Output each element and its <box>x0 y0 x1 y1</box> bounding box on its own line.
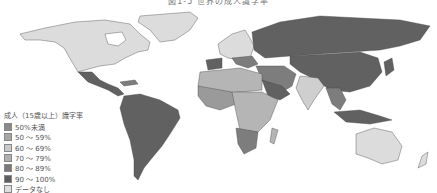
region-japan <box>384 58 394 76</box>
region-madagascar <box>270 128 278 144</box>
region-europe <box>218 30 254 60</box>
region-southern-africa <box>236 128 258 154</box>
region-east-africa <box>232 92 278 132</box>
legend-swatch <box>4 175 12 183</box>
legend-swatch <box>4 133 12 141</box>
legend-item: 90 ～ 100% <box>4 173 83 183</box>
legend-swatch <box>4 185 12 193</box>
legend-label: 60 ～ 69% <box>15 143 51 153</box>
legend-swatch <box>4 164 12 172</box>
legend-title: 成人（15歳以上）識字率 <box>4 110 83 120</box>
legend-item: 50 ～ 59% <box>4 132 83 142</box>
legend-label: 50 ～ 59% <box>15 132 51 142</box>
legend-swatch <box>4 154 12 162</box>
region-greenland <box>138 12 198 42</box>
region-north-america <box>20 20 150 72</box>
region-south-america <box>120 94 180 180</box>
legend-swatch <box>4 144 12 152</box>
legend-item: データなし <box>4 184 83 193</box>
region-mexico <box>78 72 124 96</box>
legend-label: 90 ～ 100% <box>15 174 55 184</box>
legend-swatch <box>4 123 12 131</box>
region-india <box>296 76 324 110</box>
legend-item: 80 ～ 89% <box>4 163 83 173</box>
region-australia <box>356 128 402 164</box>
region-caribbean <box>120 80 138 86</box>
region-balkans <box>232 56 258 68</box>
legend-item: 60 ～ 69% <box>4 143 83 153</box>
map-legend: 成人（15歳以上）識字率 50%未満 50 ～ 59% 60 ～ 69% 70 … <box>4 110 83 193</box>
legend-label: 70 ～ 79% <box>15 153 51 163</box>
region-iberia <box>206 58 222 70</box>
legend-label: 50%未満 <box>15 122 45 132</box>
legend-item: 50%未満 <box>4 122 83 132</box>
region-indonesia <box>334 110 392 124</box>
legend-label: 80 ～ 89% <box>15 163 51 173</box>
region-russia <box>252 16 430 58</box>
legend-item: 70 ～ 79% <box>4 153 83 163</box>
region-new-zealand <box>418 152 428 168</box>
legend-label: データなし <box>15 184 50 193</box>
